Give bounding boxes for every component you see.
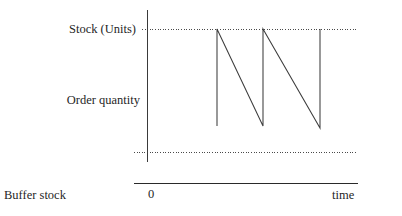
- stock-level-sawtooth-path: [217, 29, 320, 128]
- chart-canvas: [0, 0, 402, 216]
- y-axis-top-label: Stock (Units): [69, 23, 136, 36]
- origin-label: 0: [148, 188, 154, 201]
- buffer-stock-label: Buffer stock: [4, 189, 66, 202]
- inventory-sawtooth-diagram: Stock (Units) Order quantity Buffer stoc…: [0, 0, 402, 216]
- order-quantity-label: Order quantity: [67, 94, 140, 107]
- x-axis-label: time: [332, 189, 354, 202]
